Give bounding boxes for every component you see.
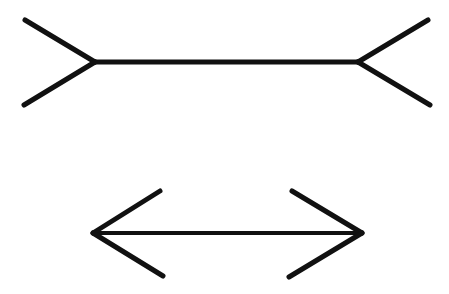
muller-lyer-diagram [0,0,449,294]
